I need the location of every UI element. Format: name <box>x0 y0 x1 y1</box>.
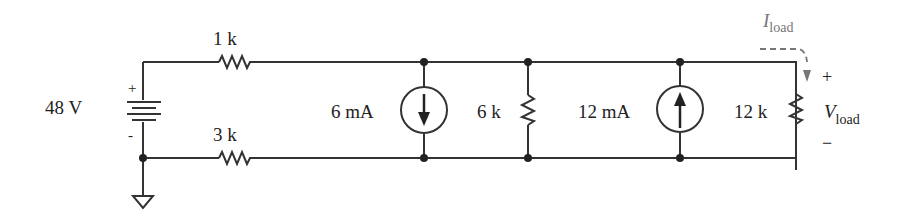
ground-icon <box>133 196 153 208</box>
circuit-diagram: + - 48 V 1 k 3 k 6 mA 6 k 12 mA <box>0 0 911 221</box>
wires <box>143 62 796 196</box>
resistor-1k <box>219 56 253 68</box>
iload-label: Iload <box>762 10 793 35</box>
current-source-12ma <box>657 62 703 158</box>
battery-plus: + <box>128 80 136 96</box>
current-arrow-iload <box>760 49 811 82</box>
arrow-up-icon <box>674 92 686 106</box>
resistor-3k-label: 3 k <box>213 124 237 145</box>
resistor-3k <box>219 152 253 164</box>
vload-label: Vload <box>824 101 860 127</box>
arrow-down-icon <box>803 70 811 82</box>
resistor-1k-label: 1 k <box>213 28 237 49</box>
arrow-down-icon <box>418 112 430 126</box>
battery-minus: - <box>128 127 133 143</box>
vload-minus: − <box>822 133 832 153</box>
current-source-6ma-label: 6 mA <box>331 101 374 122</box>
source-label: 48 V <box>45 97 82 118</box>
current-source-6ma <box>401 62 447 158</box>
resistor-6k <box>522 62 534 158</box>
vload-plus: + <box>822 67 832 87</box>
current-source-12ma-label: 12 mA <box>578 101 631 122</box>
resistor-12k-label: 12 k <box>734 101 768 122</box>
battery-symbol <box>127 102 161 120</box>
resistor-6k-label: 6 k <box>477 101 501 122</box>
